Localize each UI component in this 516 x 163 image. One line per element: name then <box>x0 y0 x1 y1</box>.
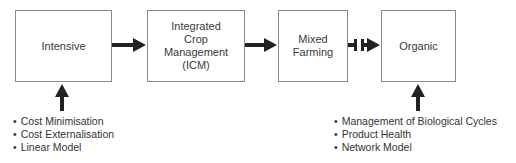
organic-attributes-list: Management of Biological Cycles Product … <box>334 115 497 154</box>
list-item: Product Health <box>334 128 497 141</box>
arrow-icm-to-mixed <box>245 38 277 52</box>
intensive-attributes-list: Cost Minimisation Cost Externalisation L… <box>13 115 114 154</box>
up-arrow-intensive <box>55 84 69 111</box>
up-arrow-organic <box>411 84 425 111</box>
list-item: Management of Biological Cycles <box>334 115 497 128</box>
list-item: Cost Minimisation <box>13 115 114 128</box>
broken-arrow-mixed-to-organic <box>348 38 380 52</box>
list-item: Network Model <box>334 141 497 154</box>
arrow-intensive-to-icm <box>112 38 146 52</box>
list-item: Cost Externalisation <box>13 128 114 141</box>
list-item: Linear Model <box>13 141 114 154</box>
